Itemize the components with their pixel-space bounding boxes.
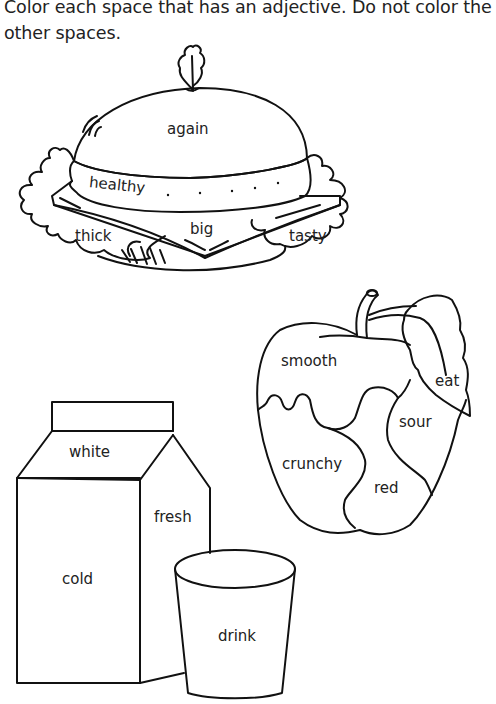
word-sour[interactable]: sour	[399, 413, 432, 431]
word-cold[interactable]: cold	[62, 570, 93, 588]
word-big[interactable]: big	[190, 220, 213, 238]
milk-carton-drawing	[17, 402, 210, 683]
word-crunchy[interactable]: crunchy	[282, 455, 342, 473]
word-again[interactable]: again	[167, 120, 209, 138]
word-thick[interactable]: thick	[75, 227, 112, 245]
apple-drawing	[257, 290, 470, 534]
word-smooth[interactable]: smooth	[281, 352, 337, 370]
apple-stem	[356, 290, 378, 338]
word-fresh[interactable]: fresh	[154, 508, 192, 526]
word-white[interactable]: white	[69, 443, 110, 461]
word-drink[interactable]: drink	[218, 627, 256, 645]
word-red[interactable]: red	[374, 479, 399, 497]
word-tasty[interactable]: tasty	[289, 227, 327, 245]
word-eat[interactable]: eat	[435, 372, 459, 390]
glass-drawing	[175, 550, 295, 698]
apple-leaf-region[interactable]	[402, 296, 470, 416]
